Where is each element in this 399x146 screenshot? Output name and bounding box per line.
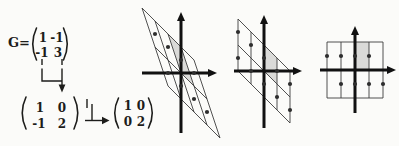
- intermediate-matrix: 1 0 -1 2: [22, 97, 78, 131]
- right-paren: [74, 97, 78, 129]
- lattice-point: [262, 56, 266, 60]
- unit-cell-shade: [264, 45, 277, 84]
- axis-arrowhead-up-icon: [177, 12, 185, 21]
- lattice-line: [168, 86, 220, 138]
- matrix-entry: 0: [58, 101, 66, 115]
- left-paren: [22, 97, 26, 129]
- lattice-point: [381, 82, 385, 86]
- reduction-step-arrow-down: [42, 59, 65, 93]
- axis-arrowhead-up-icon: [260, 15, 268, 24]
- lattice-point: [288, 82, 292, 86]
- lattice-point: [325, 54, 329, 58]
- lattice-point: [288, 108, 292, 112]
- arrow-elbow: [42, 69, 62, 82]
- lattice-point: [275, 95, 279, 99]
- axis-arrowhead-right-icon: [387, 66, 396, 74]
- matrix-entry: 1: [36, 101, 44, 115]
- lattice-point: [179, 84, 183, 88]
- lattice-point: [249, 69, 253, 73]
- axis-arrowhead-up-icon: [351, 26, 359, 35]
- lattice-point: [249, 43, 253, 47]
- lattice-point: [275, 69, 279, 73]
- lattice-reduction-figure: G= 1 -1 -1 3 1 0 -1 2 1 0 0 2: [0, 0, 399, 146]
- lattice-point: [192, 71, 196, 75]
- matrix-entry: -1: [35, 46, 48, 60]
- figure-canvas: G= 1 -1 -1 3 1 0 -1 2 1 0 0 2: [0, 0, 399, 146]
- lattice-panel-skewed: [142, 8, 220, 138]
- lattice-point: [262, 82, 266, 86]
- lattice-point: [367, 82, 371, 86]
- lattice-point: [353, 54, 357, 58]
- right-paren: [64, 28, 68, 60]
- lattice-panels: [142, 8, 396, 138]
- lattice-point: [339, 54, 343, 58]
- matrix-entry: -1: [50, 31, 63, 45]
- lattice-point: [205, 110, 209, 114]
- left-paren: [115, 98, 119, 128]
- unit-cell-shade: [355, 42, 369, 70]
- lattice-point: [339, 82, 343, 86]
- lattice-point: [236, 30, 240, 34]
- lattice-point: [166, 71, 170, 75]
- lattice-point: [153, 32, 157, 36]
- lattice-point: [192, 97, 196, 101]
- reduction-step-arrow-right: [85, 99, 110, 124]
- matrix-entry: 2: [58, 117, 66, 131]
- gram-matrix: G= 1 -1 -1 3: [8, 28, 67, 60]
- right-paren: [149, 98, 153, 128]
- axis-arrowhead-right-icon: [208, 69, 217, 77]
- matrix-entry: 2: [137, 115, 145, 129]
- lattice-point: [166, 45, 170, 49]
- matrix-entry: 3: [54, 46, 62, 60]
- axis-arrowhead-right-icon: [293, 67, 302, 75]
- lattice-point: [179, 58, 183, 62]
- lattice-point: [353, 82, 357, 86]
- matrix-entry: 0: [124, 115, 132, 129]
- lattice-point: [367, 54, 371, 58]
- lattice-point: [236, 56, 240, 60]
- lattice-panel-rectangular: [320, 26, 396, 113]
- arrowhead-down-icon: [59, 85, 66, 93]
- reduced-matrix: 1 0 0 2: [115, 98, 153, 129]
- matrix-entry: 1: [39, 31, 47, 45]
- lattice-line: [142, 8, 194, 60]
- matrix-entry: 1: [124, 99, 132, 113]
- matrix-entry: 0: [137, 99, 145, 113]
- lattice-panel-intermediate: [234, 15, 302, 128]
- matrix-g-label: G=: [8, 35, 30, 50]
- arrowhead-right-icon: [102, 117, 110, 124]
- matrix-entry: -1: [32, 117, 45, 131]
